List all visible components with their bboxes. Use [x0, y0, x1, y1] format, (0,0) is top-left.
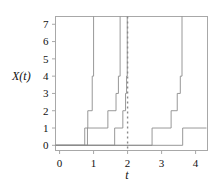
x-axis-label: t: [125, 168, 129, 182]
x-tick-label-3: 3: [159, 157, 165, 169]
x-tick-label-2: 2: [125, 157, 131, 169]
x-tick-label-1: 1: [91, 157, 97, 169]
series-path-3: [56, 14, 128, 145]
plot-frame: [56, 17, 208, 151]
y-tick-label-1: 1: [43, 122, 49, 134]
y-axis-tick-labels: 01234567: [43, 18, 49, 151]
y-tick-label-5: 5: [43, 53, 49, 65]
y-axis-ticks: [52, 24, 56, 145]
y-tick-label-4: 4: [43, 70, 49, 82]
y-axis-label: X(t): [11, 69, 31, 83]
x-axis-tick-labels: 01234: [57, 157, 199, 169]
y-tick-label-3: 3: [43, 87, 49, 99]
y-tick-label-0: 0: [43, 139, 49, 151]
figure-container: 01234567 01234 X(t) t: [0, 0, 222, 183]
step-function-chart: 01234567 01234 X(t) t: [0, 0, 222, 183]
y-tick-label-6: 6: [43, 35, 49, 47]
series-path-1: [56, 14, 94, 145]
series-path-5: [56, 128, 207, 145]
y-tick-label-2: 2: [43, 105, 49, 117]
x-tick-label-0: 0: [57, 157, 63, 169]
x-tick-label-4: 4: [193, 157, 199, 169]
y-tick-label-7: 7: [43, 18, 49, 30]
series-paths: [56, 14, 207, 145]
x-axis-ticks: [60, 151, 196, 155]
